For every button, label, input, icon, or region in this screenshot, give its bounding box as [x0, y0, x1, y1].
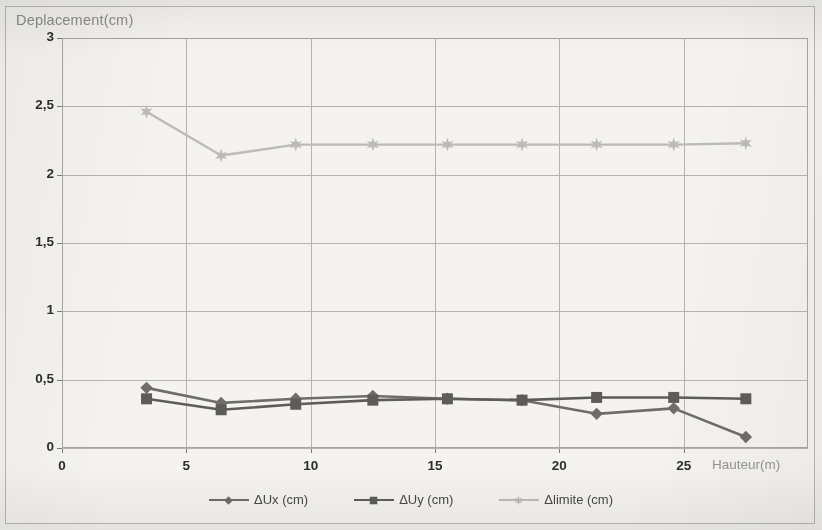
legend-item[interactable]: ΔUx (cm) — [209, 492, 308, 507]
square-marker-icon — [367, 395, 378, 406]
square-marker-icon — [668, 392, 679, 403]
x-axis-title: Hauteur(m) — [712, 457, 780, 472]
y-tick-label: 0 — [46, 439, 54, 454]
y-tick-label: 0,5 — [35, 371, 54, 386]
series-line — [147, 112, 746, 156]
legend-label: ΔUy (cm) — [398, 492, 453, 507]
legend-item[interactable]: ΔUy (cm) — [354, 492, 453, 507]
x-tick-label: 0 — [58, 458, 66, 473]
y-tick-label: 3 — [46, 29, 54, 44]
legend-label: ΔUx (cm) — [253, 492, 308, 507]
star-marker-icon — [140, 105, 152, 119]
x-tick-label: 10 — [303, 458, 318, 473]
gridline-horizontal — [62, 448, 808, 449]
series-1 — [140, 382, 752, 444]
diamond-marker-icon — [590, 408, 602, 420]
series-layer — [62, 38, 808, 448]
legend-swatch — [499, 493, 539, 507]
diamond-marker-icon — [224, 496, 233, 505]
y-axis-tick-labels: 00,511,522,53 — [0, 0, 54, 530]
legend-swatch — [354, 493, 394, 507]
series-2 — [141, 392, 751, 415]
x-tick-label: 20 — [552, 458, 567, 473]
square-marker-icon — [591, 392, 602, 403]
x-tick-label: 25 — [676, 458, 691, 473]
square-marker-icon — [442, 393, 453, 404]
y-tick-label: 2,5 — [35, 97, 54, 112]
square-marker-icon — [368, 495, 379, 506]
y-tick-label: 1 — [46, 302, 54, 317]
square-marker-icon — [740, 393, 751, 404]
y-tick-label: 1,5 — [35, 234, 54, 249]
chart-legend: ΔUx (cm)ΔUy (cm)Δlimite (cm) — [0, 492, 822, 507]
diamond-marker-icon — [140, 382, 152, 394]
diamond-marker-icon — [223, 495, 234, 506]
square-marker-icon — [141, 393, 152, 404]
legend-swatch — [209, 493, 249, 507]
legend-item[interactable]: Δlimite (cm) — [499, 492, 613, 507]
square-marker-icon — [216, 404, 227, 415]
square-marker-icon — [370, 496, 378, 504]
series-3 — [140, 105, 751, 163]
x-tick-label: 5 — [183, 458, 191, 473]
star-marker-icon — [513, 495, 524, 506]
legend-label: Δlimite (cm) — [543, 492, 613, 507]
square-marker-icon — [517, 395, 528, 406]
x-tick-label: 15 — [427, 458, 442, 473]
chart-figure: Deplacement(cm) 00,511,522,53 0510152025… — [0, 0, 822, 530]
diamond-marker-icon — [740, 431, 752, 443]
star-marker-icon — [515, 495, 523, 505]
y-tick-label: 2 — [46, 166, 54, 181]
square-marker-icon — [290, 399, 301, 410]
diamond-marker-icon — [668, 402, 680, 414]
plot-area — [62, 38, 808, 448]
